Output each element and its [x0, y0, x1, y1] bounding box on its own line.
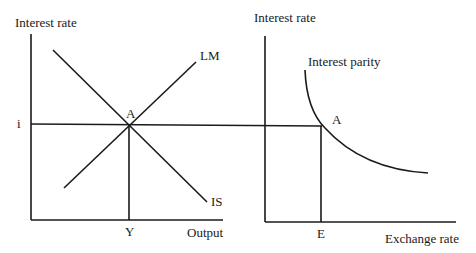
- left-x-axis-label: Output: [187, 225, 224, 240]
- output-tick-label: Y: [125, 224, 135, 239]
- interest-parity-curve: [305, 70, 428, 173]
- interest-rate-line: [31, 124, 322, 126]
- interest-parity-label: Interest parity: [308, 54, 381, 69]
- exchange-tick-label: E: [317, 226, 325, 241]
- interest-tick-label: i: [17, 116, 21, 131]
- lm-curve-label: LM: [200, 48, 220, 63]
- is-lm-interest-parity-diagram: Interest rate Output IS LM Y i A Interes…: [0, 0, 476, 253]
- left-equilibrium-label: A: [126, 106, 136, 121]
- right-x-axis-label: Exchange rate: [385, 231, 459, 246]
- left-y-axis-label: Interest rate: [15, 15, 77, 30]
- right-y-axis-label: Interest rate: [254, 10, 316, 25]
- right-equilibrium-label: A: [332, 112, 342, 127]
- is-curve-label: IS: [211, 194, 223, 209]
